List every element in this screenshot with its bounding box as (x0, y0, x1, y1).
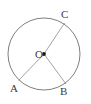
label-point-b: B (60, 86, 67, 97)
label-point-a: A (10, 83, 18, 94)
radius-segment-oc (44, 23, 65, 54)
radius-segment-ob (44, 54, 66, 84)
circle-geometry-figure: O C A B (0, 0, 91, 104)
label-center-o: O (35, 49, 43, 60)
label-point-c: C (61, 9, 68, 20)
